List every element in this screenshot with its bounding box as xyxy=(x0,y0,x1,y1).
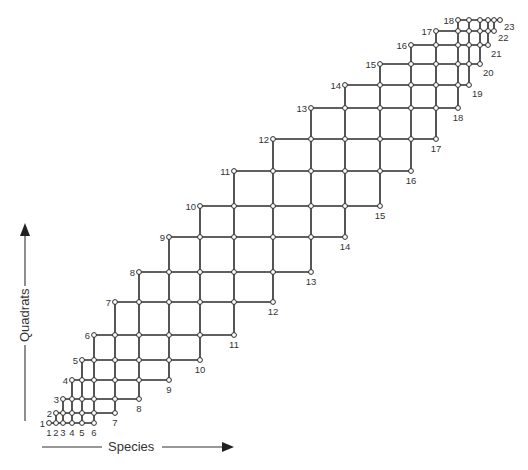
grid-node xyxy=(456,62,461,67)
grid-node xyxy=(70,397,75,402)
quadrat-label: 1 xyxy=(40,418,45,429)
grid-node xyxy=(92,358,97,363)
grid-node xyxy=(434,62,439,67)
grid-node xyxy=(409,43,414,48)
grid-node xyxy=(232,333,237,338)
grid-node xyxy=(80,397,85,402)
grid-node xyxy=(456,43,461,48)
quadrat-label: 16 xyxy=(396,40,407,51)
grid-node xyxy=(434,83,439,88)
species-label: 12 xyxy=(268,306,279,317)
grid-node xyxy=(467,83,472,88)
quadrat-label: 2 xyxy=(47,408,52,419)
grid-node xyxy=(137,333,142,338)
species-label: 14 xyxy=(340,241,351,252)
species-label: 8 xyxy=(136,403,141,414)
grid-node xyxy=(378,106,383,111)
grid-node xyxy=(467,43,472,48)
species-label: 17 xyxy=(431,143,442,154)
grid-node xyxy=(478,62,483,67)
grid-node xyxy=(137,300,142,305)
species-label: 15 xyxy=(375,210,386,221)
grid-node xyxy=(271,235,276,240)
species-label: 4 xyxy=(69,427,74,438)
grid-node xyxy=(486,18,491,23)
grid-node xyxy=(61,397,66,402)
grid-node xyxy=(80,358,85,363)
grid-node xyxy=(54,421,59,426)
grid-node xyxy=(378,169,383,174)
grid-node xyxy=(232,204,237,209)
grid-node xyxy=(92,421,97,426)
grid-node xyxy=(167,300,172,305)
grid-node xyxy=(434,137,439,142)
grid-node xyxy=(309,270,314,275)
grid-node xyxy=(198,235,203,240)
grid-node xyxy=(378,83,383,88)
grid-node xyxy=(137,270,142,275)
grid-node xyxy=(198,270,203,275)
grid-node xyxy=(486,29,491,34)
species-label: 7 xyxy=(112,417,117,428)
grid-node xyxy=(80,378,85,383)
quadrat-label: 10 xyxy=(185,201,196,212)
grid-node xyxy=(378,62,383,67)
species-label: 10 xyxy=(195,364,206,375)
grid-node xyxy=(409,62,414,67)
grid-node xyxy=(198,358,203,363)
grid-node xyxy=(378,204,383,209)
species-label: 13 xyxy=(306,276,317,287)
grid-node xyxy=(232,300,237,305)
grid-node xyxy=(92,411,97,416)
grid-node xyxy=(232,235,237,240)
quadrat-label: 14 xyxy=(330,80,341,91)
grid-node xyxy=(137,378,142,383)
quadrat-label: 8 xyxy=(130,267,135,278)
species-label: 2 xyxy=(53,427,58,438)
grid-node xyxy=(409,106,414,111)
grid-node xyxy=(271,270,276,275)
grid-node xyxy=(456,18,461,23)
quadrats-axis: Quadrats xyxy=(17,223,32,421)
grid-node xyxy=(113,333,118,338)
species-axis: Species xyxy=(42,439,234,454)
grid-node xyxy=(113,378,118,383)
grid-node xyxy=(198,300,203,305)
grid-node xyxy=(409,137,414,142)
quadrat-label: 9 xyxy=(160,232,165,243)
quadrats-axis-label: Quadrats xyxy=(17,288,32,342)
grid-node xyxy=(80,411,85,416)
grid-node xyxy=(378,137,383,142)
species-label: 16 xyxy=(406,175,417,186)
species-label: 21 xyxy=(491,48,502,59)
grid-node xyxy=(167,333,172,338)
grid-node xyxy=(434,43,439,48)
grid-node xyxy=(309,169,314,174)
grid-node xyxy=(113,358,118,363)
grid-node xyxy=(70,421,75,426)
quadrat-species-lattice-diagram: 1234567891011121314151617181234567891011… xyxy=(0,0,528,470)
grid-node xyxy=(54,411,59,416)
grid-node xyxy=(343,204,348,209)
grid-node xyxy=(498,18,503,23)
grid-node xyxy=(309,204,314,209)
grid-node xyxy=(486,43,491,48)
grid-node xyxy=(271,137,276,142)
grid-node xyxy=(456,106,461,111)
grid-node xyxy=(271,204,276,209)
grid-node xyxy=(70,378,75,383)
grid-node xyxy=(70,411,75,416)
grid-node xyxy=(343,169,348,174)
grid-node xyxy=(232,270,237,275)
species-label: 5 xyxy=(79,427,84,438)
grid-node xyxy=(271,300,276,305)
grid-node xyxy=(137,358,142,363)
grid-node xyxy=(198,333,203,338)
grid-node xyxy=(467,29,472,34)
grid-node xyxy=(492,29,497,34)
grid-node xyxy=(137,397,142,402)
grid-node xyxy=(478,43,483,48)
quadrat-label: 3 xyxy=(54,394,59,405)
species-axis-label: Species xyxy=(108,439,155,454)
grid-node xyxy=(61,421,66,426)
